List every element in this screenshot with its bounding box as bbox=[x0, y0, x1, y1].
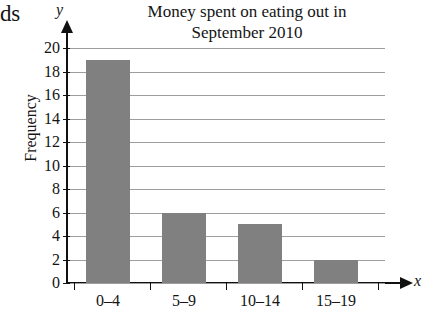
bar bbox=[86, 60, 130, 283]
y-tick-mark bbox=[63, 213, 70, 214]
y-tick-label: 4 bbox=[20, 228, 60, 244]
y-tick-label: 8 bbox=[20, 181, 60, 197]
y-tick-mark bbox=[63, 166, 70, 167]
y-tick-label: 12 bbox=[20, 134, 60, 150]
y-axis-letter: y bbox=[56, 1, 63, 19]
y-tick-mark bbox=[63, 95, 70, 96]
cropped-text-fragment: ds bbox=[0, 2, 20, 25]
y-tick-label: 10 bbox=[20, 158, 60, 174]
y-tick-label-group: 20181614121086420 bbox=[14, 48, 60, 283]
chart-title-line-1: Money spent on eating out in bbox=[88, 1, 406, 22]
y-tick-label: 14 bbox=[20, 111, 60, 127]
y-tick-mark bbox=[63, 283, 70, 284]
y-tick-label: 18 bbox=[20, 64, 60, 80]
y-tick-label: 0 bbox=[20, 275, 60, 291]
x-tick-mark bbox=[150, 283, 151, 290]
x-category-label: 0–4 bbox=[68, 292, 148, 310]
x-category-label: 5–9 bbox=[144, 292, 224, 310]
y-tick-mark bbox=[63, 189, 70, 190]
y-tick-label: 2 bbox=[20, 252, 60, 268]
x-axis-arrow-icon bbox=[400, 277, 413, 289]
bar bbox=[162, 213, 206, 284]
x-tick-mark bbox=[378, 283, 379, 290]
y-tick-mark bbox=[63, 119, 70, 120]
y-tick-label: 16 bbox=[20, 87, 60, 103]
bar bbox=[238, 224, 282, 283]
y-tick-mark bbox=[63, 260, 70, 261]
bar bbox=[314, 260, 358, 284]
chart-title-line-2: September 2010 bbox=[88, 22, 406, 43]
histogram-figure: ds Money spent on eating out in Septembe… bbox=[0, 0, 433, 321]
x-tick-mark bbox=[226, 283, 227, 290]
chart-title: Money spent on eating out in September 2… bbox=[88, 1, 406, 43]
y-tick-label: 6 bbox=[20, 205, 60, 221]
x-category-label: 15–19 bbox=[296, 292, 376, 310]
gridline bbox=[67, 48, 385, 49]
y-axis-arrow-icon bbox=[61, 20, 73, 33]
y-tick-mark bbox=[63, 142, 70, 143]
x-axis-letter: x bbox=[414, 272, 421, 290]
x-category-label: 10–14 bbox=[220, 292, 300, 310]
x-tick-mark bbox=[74, 283, 75, 290]
y-tick-mark bbox=[63, 236, 70, 237]
y-tick-mark bbox=[63, 48, 70, 49]
y-tick-label: 20 bbox=[20, 40, 60, 56]
x-tick-mark bbox=[302, 283, 303, 290]
y-tick-mark bbox=[63, 72, 70, 73]
plot-area bbox=[67, 48, 385, 283]
